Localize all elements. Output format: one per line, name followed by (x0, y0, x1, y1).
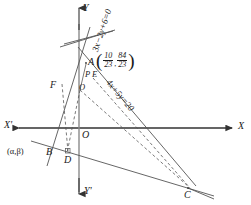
coord-open-paren: ( (96, 53, 102, 68)
coord-fraction-x-denominator: 23 (103, 61, 113, 69)
origin-label: O (82, 130, 89, 140)
point-label-B: B (46, 147, 52, 157)
dashed-E-to-C (93, 78, 190, 188)
axis-label-y-positive: Y (83, 3, 89, 13)
alpha-beta-label: (α,β) (7, 147, 24, 156)
coord-comma: , (114, 60, 116, 69)
point-label-F: F (50, 80, 56, 90)
coord-fraction-x: 10 23 (103, 52, 113, 69)
coord-fraction-y: 84 23 (117, 52, 127, 69)
coord-fraction-y-denominator: 23 (117, 61, 127, 69)
axis-label-y-negative: Y' (84, 186, 92, 196)
line-B-to-C (31, 141, 214, 196)
point-marker-A (85, 62, 87, 64)
geometry-figure: X' X Y Y' O A B C D E F P O 3x−2y+6=0 4x… (0, 0, 251, 205)
point-label-A: A (88, 57, 94, 67)
point-label-D: D (64, 155, 71, 165)
point-label-Q: O (79, 83, 85, 92)
line-eq1-upper (60, 30, 115, 47)
coord-close-paren: ) (128, 53, 134, 68)
dashed-Q-to-D (67, 90, 80, 153)
line-beyond-C (188, 188, 214, 199)
axis-label-x-negative: X' (4, 120, 12, 130)
dashed-F-to-D (62, 84, 68, 152)
point-a-coordinates: ( 10 23 , 84 23 ) (96, 52, 135, 69)
point-label-E: E (92, 70, 97, 79)
axis-label-x-positive: X (238, 121, 244, 131)
point-label-C: C (184, 190, 191, 200)
point-label-P: P (85, 70, 90, 79)
